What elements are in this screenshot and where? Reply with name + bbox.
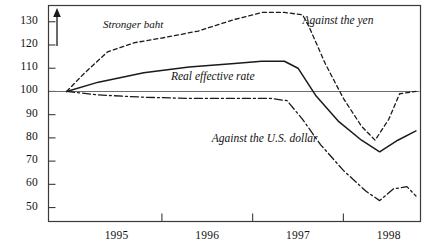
exchange-rate-line-chart: 1301201101009080706050 1995199619971998 …: [0, 0, 427, 247]
plot-frame: [49, 6, 421, 222]
series-label-1: Real effective rate: [171, 70, 255, 82]
y-tick-label: 120: [8, 37, 38, 49]
x-tick-label: 1998: [359, 229, 419, 241]
stronger-baht-annotation: Stronger baht: [103, 18, 163, 30]
y-tick-label: 80: [8, 130, 38, 142]
y-tick-label: 90: [8, 107, 38, 119]
y-tick-label: 130: [8, 14, 38, 26]
y-tick-label: 100: [8, 83, 38, 95]
y-tick-label: 110: [8, 60, 38, 72]
y-tick-label: 60: [8, 176, 38, 188]
y-tick-label: 70: [8, 153, 38, 165]
chart-plot-area: [0, 0, 427, 247]
plot-border: [49, 6, 421, 222]
x-tick-label: 1995: [87, 229, 147, 241]
x-tick-label: 1996: [177, 229, 237, 241]
series-label-0: Against the yen: [303, 14, 374, 26]
series-label-2: Against the U.S. dollar: [212, 132, 318, 144]
x-tick-label: 1997: [268, 229, 328, 241]
y-tick-label: 50: [8, 200, 38, 212]
